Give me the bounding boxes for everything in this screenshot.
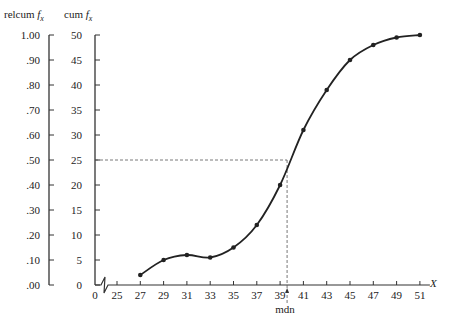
cum-tick-label: 30 [71, 129, 83, 141]
cum-tick-label: 15 [71, 204, 83, 216]
cum-tick-label: 40 [71, 79, 83, 91]
cum-axis-title: cum fx [64, 8, 93, 23]
data-point [371, 43, 376, 48]
data-point [231, 245, 236, 250]
cum-tick-label: 5 [77, 254, 83, 266]
x-tick-label: 51 [414, 289, 425, 301]
x-tick-label: 45 [345, 289, 357, 301]
x-tick-label: 47 [368, 289, 380, 301]
relcum-axis: .00.10.20.30.40.50.60.70.80.901.00 [21, 29, 54, 291]
data-point [185, 253, 190, 258]
median-label: mdn [275, 303, 295, 315]
relcum-tick-label: 1.00 [21, 29, 41, 41]
x-tick-label: 29 [158, 289, 170, 301]
x-tick-label: 33 [205, 289, 217, 301]
data-point [278, 183, 283, 188]
data-point [394, 35, 399, 40]
cum-tick-label: 0 [77, 279, 83, 291]
cum-tick-label: 35 [71, 104, 83, 116]
data-point [418, 33, 423, 38]
cum-tick-label: 10 [71, 229, 83, 241]
relcum-tick-label: .10 [26, 254, 40, 266]
x-tick-label: 35 [228, 289, 240, 301]
relcum-tick-label: .00 [26, 279, 40, 291]
cum-tick-label: 50 [71, 29, 83, 41]
data-point [138, 273, 143, 278]
data-point [324, 88, 329, 93]
data-point [301, 128, 306, 133]
arrow-up-icon [285, 288, 289, 293]
relcum-tick-label: .30 [26, 204, 40, 216]
x-tick-label: 27 [135, 289, 147, 301]
cum-tick-label: 45 [71, 54, 83, 66]
cumulative-frequency-chart: relcum fxcum fx.00.10.20.30.40.50.60.70.… [0, 0, 456, 326]
x-tick-label: 39 [275, 289, 287, 301]
median-guide: mdn [95, 160, 295, 315]
x-axis: 02527293133353739414345474951X [92, 277, 438, 301]
data-point [161, 258, 166, 263]
relcum-tick-label: .20 [26, 229, 40, 241]
cum-tick-label: 25 [71, 154, 83, 166]
cum-freq-series [138, 33, 422, 278]
relcum-tick-label: .50 [26, 154, 40, 166]
relcum-tick-label: .90 [26, 54, 40, 66]
relcum-tick-label: .70 [26, 104, 40, 116]
relcum-tick-label: .60 [26, 129, 40, 141]
x-tick-label: 43 [321, 289, 333, 301]
x-tick-label: 0 [92, 289, 98, 301]
x-tick-label: 41 [298, 289, 309, 301]
x-tick-label: 25 [112, 289, 124, 301]
data-point [254, 223, 259, 228]
data-point [348, 58, 353, 63]
cum-tick-label: 20 [71, 179, 83, 191]
relcum-tick-label: .80 [26, 79, 40, 91]
x-tick-label: 31 [181, 289, 192, 301]
relcum-tick-label: .40 [26, 179, 40, 191]
x-axis-title: X [429, 277, 438, 289]
data-point [208, 255, 213, 260]
x-tick-label: 49 [391, 289, 403, 301]
relcum-axis-title: relcum fx [4, 8, 44, 23]
x-tick-label: 37 [251, 289, 263, 301]
